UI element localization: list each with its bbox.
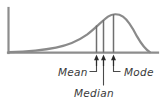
chart-axes xyxy=(8,8,158,53)
density-curve-group xyxy=(9,14,150,52)
median-arrow-icon xyxy=(101,55,106,66)
mode-arrow-icon xyxy=(111,55,116,66)
label-leader-lines xyxy=(90,66,121,86)
distribution-figure: Mean Median Mode xyxy=(0,0,161,102)
median-label: Median xyxy=(74,87,114,99)
statistic-labels: Mean Median Mode xyxy=(58,66,154,99)
mode-leader-line xyxy=(114,66,121,72)
density-curve xyxy=(9,14,150,52)
mean-arrow-icon xyxy=(94,55,99,66)
mean-label: Mean xyxy=(58,66,88,78)
mode-label: Mode xyxy=(124,66,154,78)
statistic-arrows xyxy=(94,55,116,66)
distribution-chart-canvas: Mean Median Mode xyxy=(0,0,161,102)
mean-leader-line xyxy=(90,66,97,72)
